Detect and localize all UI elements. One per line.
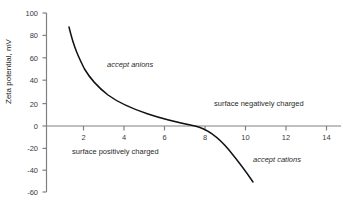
x-tick-label: 4 [122,133,126,142]
y-tick-label: 40 [18,76,38,85]
zeta-potential-chart: Zeta potential, mV 100 80 60 40 20 0 -20… [0,0,343,209]
y-axis-title: Zeta potential, mV [4,39,13,104]
y-tick-label: -60 [14,188,38,197]
annotation-accept-cations: accept cations [253,155,301,164]
x-tick-label: 14 [322,133,330,142]
annotation-accept-anions: accept anions [107,60,153,69]
y-tick-label: 60 [18,53,38,62]
x-tick-label: 2 [81,133,85,142]
y-tick-label: -40 [14,166,38,175]
x-tick-label: 12 [282,133,290,142]
y-tick-label: 100 [18,9,38,18]
y-tick-label: 0 [18,122,38,131]
x-tick-label: 10 [241,133,249,142]
y-tick-label: 20 [18,99,38,108]
y-tick-label: -20 [14,144,38,153]
annotation-surface-positively-charged: surface positively charged [72,147,159,156]
x-tick-label: 6 [162,133,166,142]
x-tick-label: 8 [203,133,207,142]
y-tick-label: 80 [18,31,38,40]
annotation-surface-negatively-charged: surface negatively charged [214,99,304,108]
